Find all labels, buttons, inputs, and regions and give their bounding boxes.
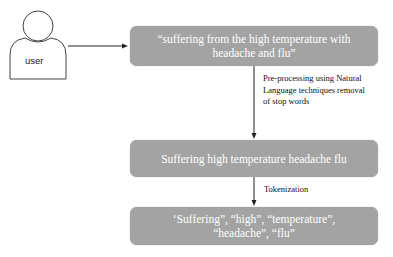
preprocessing-label: Pre-processing using Natural Language te… [263, 73, 373, 108]
filtered-sentence-text: Suffering high temperature headache flu [161, 152, 347, 166]
tokens-text: ‘Suffering”, “high”, “temperature”, “hea… [130, 212, 378, 240]
actor-label: user [25, 55, 43, 66]
tokens-box: ‘Suffering”, “high”, “temperature”, “hea… [130, 207, 378, 245]
tokenization-label: Tokenization [264, 184, 308, 196]
user-icon [10, 11, 66, 79]
filtered-sentence-box: Suffering high temperature headache flu [130, 140, 378, 177]
input-sentence-text: “suffering from the high temperature wit… [130, 32, 378, 60]
input-sentence-box: “suffering from the high temperature wit… [130, 26, 378, 66]
